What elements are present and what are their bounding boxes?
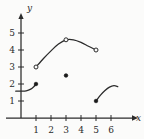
x-axis-label: x	[136, 113, 141, 123]
x-tick-label-3: 3	[63, 125, 69, 135]
branch-2-open-point	[94, 48, 98, 52]
y-tick-label-4: 4	[9, 45, 15, 55]
x-tick-label-4: 4	[78, 125, 84, 135]
isolated-1-closed-point	[64, 74, 68, 78]
function-graph-figure: y x 1 2 3 4 5 6 1	[0, 0, 144, 139]
branch-1-closed-point	[34, 82, 38, 86]
curve-branch-3	[96, 86, 118, 101]
y-tick-label-1: 1	[9, 96, 15, 106]
x-tick-label-5: 5	[93, 125, 99, 135]
x-tick-label-6: 6	[108, 125, 114, 135]
x-axis: x	[6, 113, 141, 123]
plot-canvas: y x 1 2 3 4 5 6 1	[0, 0, 144, 139]
curve-branch-2	[36, 39, 96, 67]
branch-2-open-point	[64, 38, 68, 42]
x-tick-label-2: 2	[48, 125, 54, 135]
branch-3-closed-point	[94, 99, 98, 103]
curve-layer	[16, 39, 118, 101]
curve-branch-1	[16, 84, 36, 91]
x-tick-label-1: 1	[33, 125, 39, 135]
y-tick-label-5: 5	[9, 28, 15, 38]
branch-2-open-point	[34, 65, 38, 69]
y-tick-label-2: 2	[9, 79, 15, 89]
y-tick-group: 1 2 3 4 5	[9, 28, 24, 106]
y-tick-label-3: 3	[9, 62, 15, 72]
marker-layer	[34, 38, 98, 103]
y-axis-label: y	[26, 3, 33, 13]
